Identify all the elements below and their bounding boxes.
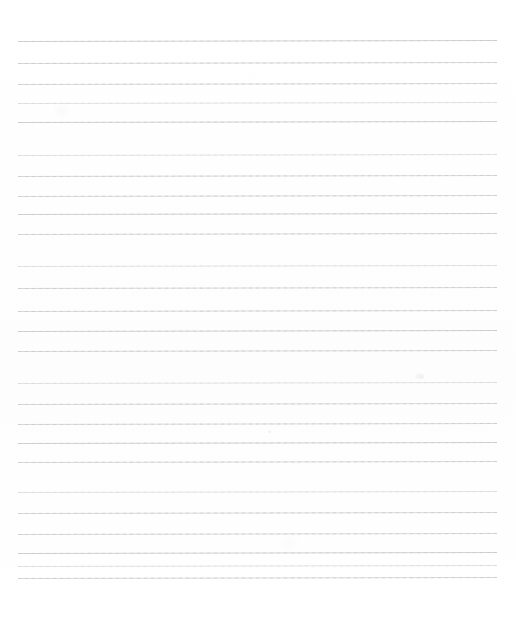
rule-line-18: [18, 423, 497, 425]
rule-line-19: [18, 442, 497, 444]
rule-line-20: [18, 461, 497, 463]
rule-line-16: [18, 382, 497, 384]
rule-line-7: [18, 175, 497, 177]
rule-line-2: [18, 62, 497, 64]
rule-line-6: [18, 154, 497, 156]
rule-line-15: [18, 350, 497, 352]
rule-line-14: [18, 330, 497, 332]
rule-line-25: [18, 565, 497, 567]
rule-line-13: [18, 310, 497, 312]
stray-scan-mark-1: [419, 374, 424, 379]
rule-line-5: [18, 121, 497, 123]
rule-line-1: [18, 40, 497, 42]
rule-line-24: [18, 552, 497, 554]
rule-line-22: [18, 512, 497, 514]
rule-line-21: [18, 491, 497, 493]
rule-line-12: [18, 287, 497, 289]
stray-scan-mark-2: [268, 430, 271, 433]
rule-line-8: [18, 195, 497, 197]
scan-noise-overlay: [0, 0, 516, 617]
rule-line-11: [18, 265, 497, 267]
rule-line-3: [18, 83, 497, 85]
rule-line-23: [18, 533, 497, 535]
rule-line-26: [18, 577, 497, 579]
rule-line-4: [18, 102, 497, 104]
rule-line-9: [18, 213, 497, 215]
paper-surface: [0, 0, 516, 617]
scanned-page: [0, 0, 516, 617]
rule-line-17: [18, 403, 497, 405]
rule-line-10: [18, 233, 497, 235]
